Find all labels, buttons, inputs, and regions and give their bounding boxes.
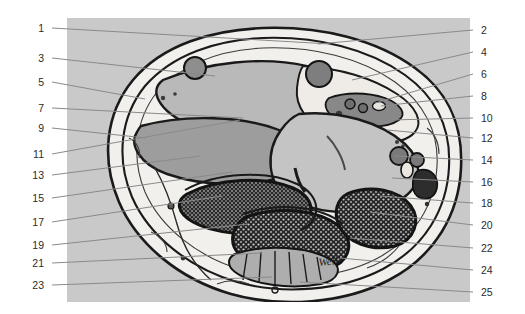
label-number-25[interactable]: 25 <box>481 287 493 298</box>
leader-line-24 <box>340 258 473 270</box>
leader-line-23 <box>52 277 272 285</box>
label-number-10[interactable]: 10 <box>481 113 493 124</box>
label-number-5[interactable]: 5 <box>38 77 44 88</box>
label-number-4[interactable]: 4 <box>481 47 487 58</box>
leader-line-1 <box>52 28 330 44</box>
leader-line-20 <box>370 212 473 225</box>
leader-line-layer <box>0 0 525 314</box>
label-number-24[interactable]: 24 <box>481 265 493 276</box>
leader-line-10 <box>390 118 473 120</box>
leader-line-21 <box>52 253 262 263</box>
leader-line-9 <box>52 128 146 138</box>
label-number-11[interactable]: 11 <box>33 149 44 160</box>
leader-line-19 <box>52 224 248 245</box>
leader-line-18 <box>380 196 473 203</box>
label-number-6[interactable]: 6 <box>481 69 487 80</box>
leader-line-7 <box>52 108 243 118</box>
label-number-18[interactable]: 18 <box>481 198 493 209</box>
leader-line-17 <box>52 196 222 222</box>
label-number-22[interactable]: 22 <box>481 243 493 254</box>
leader-line-2 <box>318 30 473 44</box>
leader-line-15 <box>52 172 232 198</box>
leader-lines-right <box>300 30 473 292</box>
label-number-19[interactable]: 19 <box>32 240 44 251</box>
leader-line-11 <box>52 120 240 154</box>
label-number-23[interactable]: 23 <box>32 280 44 291</box>
figure-canvas: Welle 1357911131517192123246810121416182… <box>0 0 525 314</box>
label-number-20[interactable]: 20 <box>481 220 493 231</box>
label-number-12[interactable]: 12 <box>481 133 493 144</box>
leader-line-25 <box>300 282 473 292</box>
leader-line-12 <box>387 130 473 138</box>
label-number-14[interactable]: 14 <box>481 155 493 166</box>
label-number-13[interactable]: 13 <box>32 170 44 181</box>
leader-line-13 <box>52 156 200 175</box>
leader-line-14 <box>394 156 473 160</box>
label-number-8[interactable]: 8 <box>481 91 487 102</box>
leader-line-22 <box>350 238 473 248</box>
label-number-21[interactable]: 21 <box>32 258 44 269</box>
leader-line-6 <box>375 74 473 103</box>
label-number-17[interactable]: 17 <box>32 217 44 228</box>
label-number-2[interactable]: 2 <box>481 25 487 36</box>
leader-lines-left <box>52 28 330 285</box>
leader-line-4 <box>352 52 473 80</box>
label-number-16[interactable]: 16 <box>481 177 493 188</box>
label-number-3[interactable]: 3 <box>38 53 44 64</box>
label-number-7[interactable]: 7 <box>38 103 44 114</box>
label-number-9[interactable]: 9 <box>38 123 44 134</box>
leader-line-16 <box>392 178 473 182</box>
label-number-1[interactable]: 1 <box>38 23 44 34</box>
leader-line-3 <box>52 58 215 76</box>
label-number-15[interactable]: 15 <box>32 193 44 204</box>
leader-line-5 <box>52 82 145 99</box>
